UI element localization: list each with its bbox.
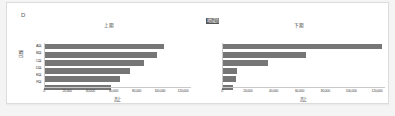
y-tick-label: D店 [26,65,42,72]
screenshot-root: D 地域別 上期 店舗 A店B店C店D店E店F店 020,00040,00060… [0,0,395,116]
bar [222,44,382,50]
bar-row [44,76,191,83]
x-axis-label: 売上 [44,96,191,102]
x-tick-label: 80,000 [132,89,141,93]
chart-panel: D 地域別 上期 店舗 A店B店C店D店E店F店 020,00040,00060… [6,2,389,104]
x-tick-label: 80,000 [321,89,330,93]
bottom-strip [0,106,395,116]
y-tick-label: A店 [26,43,42,50]
y-tick-label: B店 [26,50,42,57]
bar-row [44,52,191,59]
y-axis-line [222,43,223,87]
y-tick-label: F店 [26,79,42,86]
y-tick-label: C店 [26,58,42,65]
bar [222,60,268,66]
bar-row [222,68,385,75]
bar [222,76,236,82]
bar [44,76,120,82]
plot-area: 店舗 A店B店C店D店E店F店 020,00040,00060,00080,00… [19,32,199,101]
bar [44,60,144,66]
y-tick-label: E店 [26,72,42,79]
x-tick-label: 0 [221,89,223,93]
x-tick-label: 40,000 [86,89,95,93]
bar-row [222,76,385,83]
x-tick-label: 60,000 [109,89,118,93]
x-axis-label: 売上 [222,96,385,102]
chart-second-half: 下期 A店B店C店D店E店F店 020,00040,00060,00080,00… [205,23,393,101]
bar [44,52,157,58]
chart-first-half: 上期 店舗 A店B店C店D店E店F店 020,00040,00060,00080… [19,23,199,101]
panel-corner-mark: D [21,12,25,18]
x-tick-label: 0 [43,89,45,93]
bar-row [44,44,191,51]
bar-row [222,44,385,51]
y-axis-tick-labels: A店B店C店D店E店F店 [26,43,42,87]
bar [44,68,130,74]
x-tick-label: 120,000 [178,89,189,93]
x-tick-label: 100,000 [346,89,357,93]
y-axis-line [44,43,45,87]
bar [222,68,237,74]
bars-container: 020,00040,00060,00080,000100,000120,000売… [222,43,385,101]
bar [44,44,164,50]
bar-row [222,52,385,59]
x-tick-label: 20,000 [63,89,72,93]
x-tick-label: 100,000 [154,89,165,93]
y-axis-label: 店舗 [19,50,24,58]
bar-row [44,60,191,67]
x-tick-label: 20,000 [243,89,252,93]
bar-row [44,68,191,75]
bars-container: 020,00040,00060,00080,000100,000120,000売… [44,43,191,101]
x-tick-label: 120,000 [372,89,383,93]
bar-row [222,60,385,67]
plot-area: A店B店C店D店E店F店 020,00040,00060,00080,00010… [205,32,393,101]
chart-title: 上期 [19,23,199,29]
x-tick-label: 40,000 [269,89,278,93]
bar [222,52,306,58]
chart-title: 下期 [205,23,393,29]
x-tick-label: 60,000 [295,89,304,93]
